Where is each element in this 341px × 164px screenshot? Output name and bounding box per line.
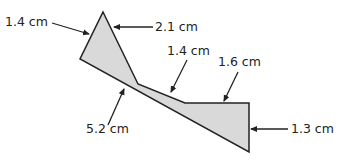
composite-shape-diagram: 1.4 cm 2.1 cm 1.4 cm 1.6 cm 5.2 cm 1.3 c… [0, 0, 341, 164]
label-right-top-side: 2.1 cm [155, 19, 198, 34]
pointer-arrow-middle-top [171, 60, 187, 92]
label-right-vertical-side: 1.3 cm [291, 121, 334, 136]
label-left-top-side: 1.4 cm [5, 14, 48, 29]
label-right-horizontal-side: 1.6 cm [218, 54, 261, 69]
pointer-arrow-right-horizontal [224, 72, 238, 101]
pointer-arrow-bottom-long [108, 89, 124, 125]
pointer-arrow-left-top [52, 23, 89, 34]
label-bottom-long-side: 5.2 cm [86, 121, 129, 136]
label-middle-top-side: 1.4 cm [167, 43, 210, 58]
